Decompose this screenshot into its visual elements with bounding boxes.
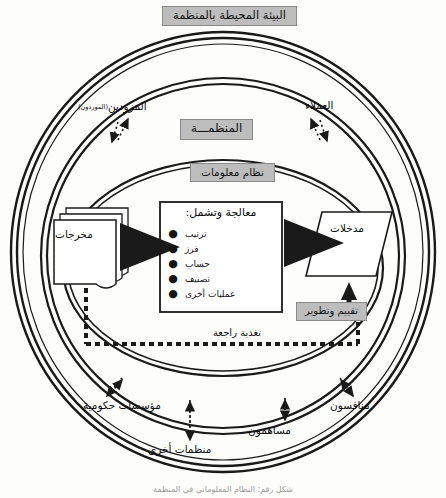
processing-item-label: ترتيب (179, 229, 207, 239)
list-item: تصنيف ● (163, 271, 271, 286)
inputs-label: مدخلات (330, 222, 364, 234)
bullet-icon: ● (167, 273, 179, 284)
list-item: حساب ● (163, 256, 271, 271)
actor-government: مؤسسات حكومية (83, 399, 161, 411)
actor-suppliers: المزودين(الموردون) (78, 100, 147, 112)
list-item: عمليات أخرى ● (163, 286, 271, 301)
actor-shareholders: مساهمون (248, 424, 291, 436)
outputs-document-stack (54, 208, 128, 288)
actor-competitors: منافسون (330, 399, 370, 411)
figure-caption: شكل رقم: النظام المعلوماتي في المنظمة (0, 485, 446, 494)
processing-item-label: حساب (179, 259, 210, 269)
actor-suppliers-text: المزودين (108, 100, 147, 112)
information-system-title: نظام معلومات (190, 163, 275, 182)
actor-suppliers-subtext: (الموردون) (78, 103, 108, 111)
actor-other-organizations: منظمات أخرى (148, 443, 211, 455)
diagram-canvas: البيئة المحيطة بالمنظمة المنظمـــة نظام … (0, 0, 446, 498)
processing-item-list: ترتيب ● فرز ● حساب ● تصنيف ● عمليات أخرى… (163, 226, 271, 301)
organization-title: المنظمـــة (180, 119, 253, 140)
list-item: ترتيب ● (163, 226, 271, 241)
processing-item-label: تصنيف (179, 274, 210, 284)
bullet-icon: ● (167, 228, 179, 239)
processing-item-label: فرز (179, 244, 199, 254)
bullet-icon: ● (167, 258, 179, 269)
list-item: فرز ● (163, 241, 271, 256)
processing-heading: معالجة وتشمل: (171, 206, 271, 219)
environment-title: البيئة المحيطة بالمنظمة (162, 6, 297, 26)
processing-item-label: عمليات أخرى (179, 289, 235, 299)
actor-customers: العملاء (305, 99, 333, 111)
bullet-icon: ● (167, 243, 179, 254)
evaluation-development-label: تقييم وتطوير (296, 302, 367, 321)
bullet-icon: ● (167, 288, 179, 299)
outputs-label: مخرجات (55, 228, 93, 240)
feedback-label: تغذية راجعة (213, 327, 261, 339)
